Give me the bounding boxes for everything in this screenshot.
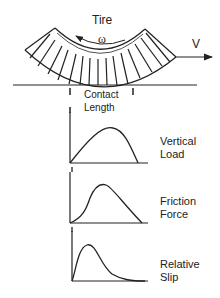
- velocity-label: V: [192, 38, 200, 51]
- tire-label: Tire: [92, 14, 112, 27]
- chart-relative-slip: [72, 231, 148, 281]
- friction-force-label: Friction Force: [160, 195, 196, 221]
- omega-label: ω: [98, 33, 106, 46]
- vertical-load-label: Vertical Load: [160, 135, 196, 161]
- chart-vertical-load: [70, 112, 148, 163]
- contact-length-label: Contact Length: [84, 88, 118, 114]
- chart-friction-force: [70, 172, 148, 223]
- relative-slip-label: Relative Slip: [160, 258, 200, 284]
